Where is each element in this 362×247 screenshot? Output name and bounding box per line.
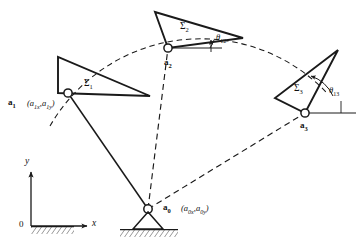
crank-link-a0-a1	[68, 93, 148, 209]
angle-label-theta13: θ13	[329, 86, 339, 97]
body-sigma3	[275, 50, 338, 113]
joint-label-a1: a1	[8, 98, 16, 109]
joint-a1	[64, 89, 72, 97]
axis-label-x: x	[92, 219, 96, 229]
crank-link-a0-a2	[148, 48, 168, 209]
body-label-sigma3: Σ3	[294, 84, 303, 95]
figure-canvas: Σ1 Σ2 Σ3 a1 (a1x,a1y) a2 a3 a0 (a0x,a0y)…	[0, 0, 362, 247]
body-label-sigma2: Σ2	[180, 22, 189, 33]
joint-label-a3: a3	[300, 121, 308, 132]
joint-a3	[301, 109, 309, 117]
joint-label-a2: a2	[164, 58, 172, 69]
angle-label-theta12: θ12	[216, 33, 226, 44]
coordinate-axes	[31, 172, 87, 234]
joint-coords-a1: (a1x,a1y)	[27, 99, 55, 110]
ground-pivot-label: a0	[163, 203, 171, 214]
axis-origin-label: 0	[19, 220, 24, 229]
ground-pivot-coords: (a0x,a0y)	[181, 204, 209, 215]
body-label-sigma1: Σ1	[84, 79, 93, 90]
axis-label-y: y	[25, 157, 29, 167]
joint-a2	[164, 44, 172, 52]
crank-link-a0-a3	[148, 113, 305, 209]
body-sigma2	[155, 12, 243, 48]
